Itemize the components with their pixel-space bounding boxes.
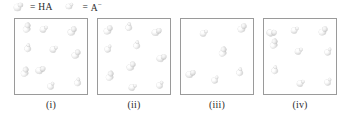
particle-box-i xyxy=(14,18,88,95)
legend-entry-a-minus: = A− xyxy=(66,2,102,14)
particle-field-iii xyxy=(181,19,253,94)
a-minus-ion-icon xyxy=(66,3,79,14)
legend-label-a-minus: A− xyxy=(91,2,102,14)
caption-iv: (iv) xyxy=(262,99,338,110)
legend-equals-ha: = xyxy=(30,3,35,13)
legend: = HA = A− xyxy=(14,0,102,16)
caption-iii: (iii) xyxy=(179,99,255,110)
legend-label-a-text: A xyxy=(91,3,98,13)
particle-field-ii xyxy=(98,19,170,94)
particle-box-ii xyxy=(97,18,171,95)
caption-ii: (ii) xyxy=(96,99,172,110)
legend-equals-a-minus: = xyxy=(82,3,87,13)
legend-label-a-charge: − xyxy=(98,1,102,9)
particle-box-iv xyxy=(263,18,337,95)
legend-label-ha: HA xyxy=(38,3,52,13)
particle-field-i xyxy=(15,19,87,94)
legend-entry-ha: = HA xyxy=(14,3,52,14)
particle-field-iv xyxy=(264,19,336,94)
ha-molecule-icon xyxy=(14,3,27,14)
particle-box-iii xyxy=(180,18,254,95)
caption-i: (i) xyxy=(13,99,89,110)
